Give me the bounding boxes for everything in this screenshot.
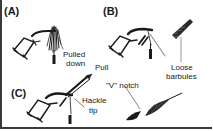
panel-a-label: (A) [4, 6, 19, 17]
v-notch-annotation: "V" notch [106, 81, 139, 90]
panel-b-vise-icon [109, 29, 165, 59]
barbules-annotation: barbules [166, 72, 197, 81]
pulled-annotation: Pulled [63, 50, 85, 59]
pull-annotation: Pull [95, 63, 108, 72]
panel-c-label: (C) [11, 88, 26, 99]
panel-a-vise-icon [13, 31, 55, 59]
hackle-annotation: Hackle [82, 96, 106, 105]
panel-b-label: (B) [103, 6, 118, 17]
down-annotation: down [66, 59, 85, 68]
loose-annotation: Loose [171, 63, 193, 72]
tip-annotation: tip [89, 106, 97, 115]
v-notch-feather-icon [125, 86, 182, 120]
loose-barbules-feather-icon [172, 19, 193, 62]
